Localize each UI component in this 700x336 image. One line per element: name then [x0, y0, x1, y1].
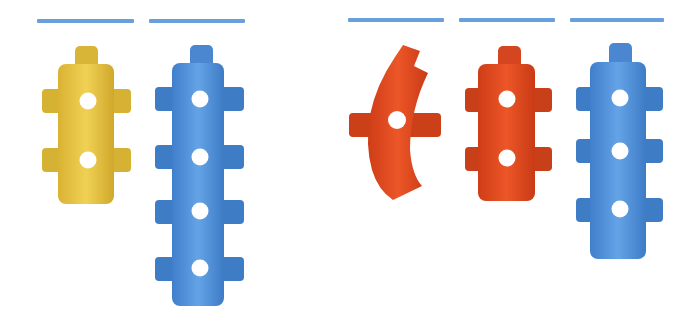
hole — [192, 149, 209, 166]
hole — [388, 111, 406, 129]
hole — [499, 150, 516, 167]
puzzle-stage — [0, 0, 700, 336]
hole — [80, 152, 97, 169]
hole — [612, 201, 629, 218]
hole — [499, 91, 516, 108]
blue-piece-4-holes[interactable] — [155, 45, 244, 306]
blue-piece-3-holes[interactable] — [576, 43, 663, 259]
red-piece-2-holes[interactable] — [465, 46, 552, 201]
hole — [192, 260, 209, 277]
hole — [80, 93, 97, 110]
yellow-piece-2-holes[interactable] — [42, 46, 131, 204]
hole — [612, 143, 629, 160]
hole — [192, 91, 209, 108]
hole — [192, 203, 209, 220]
hole — [612, 90, 629, 107]
red-curved-piece-1-hole[interactable] — [349, 45, 441, 200]
pieces-canvas — [0, 0, 700, 336]
